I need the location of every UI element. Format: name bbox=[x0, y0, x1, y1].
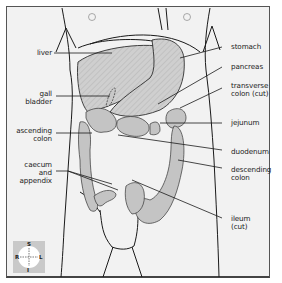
label-duodenum: duodenum bbox=[231, 148, 269, 156]
label-caecum-appendix: caecum and appendix bbox=[6, 161, 52, 186]
label-ileum: ileum (cut) bbox=[231, 215, 250, 231]
compass-superior: S bbox=[27, 241, 31, 247]
orientation-compass: S I R L bbox=[13, 241, 45, 273]
nipple-icon bbox=[89, 14, 191, 21]
compass-inferior: I bbox=[27, 267, 29, 273]
label-descending-colon: descending colon bbox=[231, 166, 271, 182]
label-liver: liver bbox=[12, 49, 52, 57]
label-ascending-colon: ascending colon bbox=[6, 127, 52, 143]
label-pancreas: pancreas bbox=[231, 63, 263, 71]
label-jejunum: jejunum bbox=[231, 119, 259, 127]
label-stomach: stomach bbox=[231, 43, 261, 51]
intestines bbox=[79, 108, 187, 223]
compass-left: L bbox=[39, 254, 43, 260]
compass-right: R bbox=[15, 254, 19, 260]
label-gall-bladder: gall bladder bbox=[12, 90, 52, 106]
label-transverse-colon: transverse colon (cut) bbox=[231, 82, 268, 98]
